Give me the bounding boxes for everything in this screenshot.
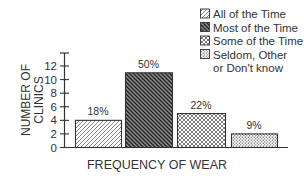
y-tick-label: 8 bbox=[51, 87, 57, 99]
y-tick-label: 0 bbox=[51, 142, 57, 154]
bar-data-label: 18% bbox=[87, 105, 108, 117]
bar bbox=[126, 73, 173, 148]
bar-data-label: 9% bbox=[246, 119, 261, 131]
bar bbox=[178, 114, 226, 148]
y-tick-label: 12 bbox=[44, 60, 57, 72]
x-axis-label: FREQUENCY OF WEAR bbox=[87, 158, 227, 172]
legend-label: or Don't know bbox=[213, 62, 284, 74]
bar bbox=[76, 120, 122, 147]
legend-swatch bbox=[201, 50, 210, 59]
bar-chart: NUMBER OF CLINICS 024681012 18%50%22%9% … bbox=[0, 0, 304, 181]
legend-label: All of the Time bbox=[213, 8, 286, 20]
legend-swatch bbox=[201, 9, 210, 18]
legend-label: Seldom, Other bbox=[213, 49, 287, 61]
y-axis-label-line-1: NUMBER OF bbox=[19, 64, 33, 136]
y-axis-label: NUMBER OF CLINICS bbox=[19, 64, 46, 136]
bar bbox=[232, 134, 278, 148]
legend-swatch bbox=[201, 23, 210, 32]
bar-data-label: 22% bbox=[190, 99, 211, 111]
legend-label: Most of the Time bbox=[213, 22, 298, 34]
bar-data-label: 50% bbox=[138, 58, 159, 70]
legend-label: Some of the Time bbox=[213, 35, 303, 47]
y-tick-label: 10 bbox=[44, 74, 57, 86]
y-tick-label: 4 bbox=[51, 114, 58, 126]
y-axis-ticks: 024681012 bbox=[44, 60, 69, 154]
y-tick-label: 2 bbox=[51, 128, 57, 140]
legend: All of the TimeMost of the TimeSome of t… bbox=[201, 8, 304, 74]
legend-swatch bbox=[201, 36, 210, 45]
y-tick-label: 6 bbox=[51, 101, 57, 113]
